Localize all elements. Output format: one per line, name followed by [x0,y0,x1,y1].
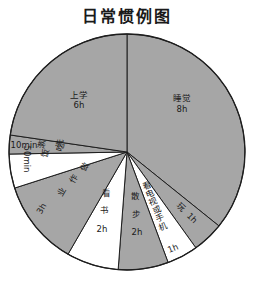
slice-label-read: 看 [102,188,111,198]
slice-label-sleep: 睡觉 [173,93,191,103]
slice-value-read: 2h [97,224,108,234]
pie-slice [10,34,127,152]
slice-value-walk: 2h [132,227,143,237]
slice-label-read: 书 [100,205,109,215]
slice-label-wash: 洗 [54,138,65,148]
slice-value-sleep: 8h [177,104,188,114]
slice-label-walk: 散 [131,191,140,201]
slice-value-school: 6h [74,100,85,110]
pie-chart: 睡觉8h上学6h玩1h看电视或手机1h散步2h看书2h做作业3h吃饭50min洗… [0,0,253,282]
slice-label-walk: 步 [132,209,141,219]
slice-label-school: 上学 [70,90,88,100]
slice-label-wash: 漱 [36,139,47,149]
slice-value-wash: 10min [11,140,38,150]
